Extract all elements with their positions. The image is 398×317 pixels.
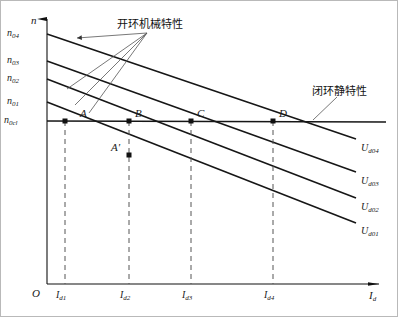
x-axis-label-sub: d xyxy=(373,295,377,303)
curve-label-sub: d02 xyxy=(368,206,379,214)
point-label-d: D xyxy=(279,107,287,119)
y-tick-n02: n02 xyxy=(7,72,19,83)
point-label-c: C xyxy=(197,107,204,119)
x-tick-id3: Id3 xyxy=(182,289,192,300)
x-tick-id2: Id2 xyxy=(120,289,130,300)
x-axis-label: Id xyxy=(369,289,376,301)
leader-line-closed-loop xyxy=(313,97,337,120)
point-label-a: A xyxy=(80,107,87,119)
curve-label-ud01: Ud01 xyxy=(361,225,379,236)
diagram-svg xyxy=(1,1,398,317)
y-tick-n03: n03 xyxy=(7,54,19,65)
curve-label-ud03: Ud03 xyxy=(361,175,379,186)
open-loop-line-2 xyxy=(47,79,356,198)
y-axis-label: n xyxy=(31,14,37,26)
curve-label-sub: d03 xyxy=(368,180,379,188)
curve-label-sub: d04 xyxy=(368,147,379,155)
curve-label-ud04: Ud04 xyxy=(361,142,379,153)
closed-loop-line xyxy=(47,121,386,122)
y-tick-n0cl: n0cl xyxy=(4,114,18,125)
x-tick-id4: Id4 xyxy=(264,289,274,300)
leader-line-a xyxy=(77,33,147,38)
annotation-closed-loop: 闭环静特性 xyxy=(312,82,367,98)
point-marker-a-prime xyxy=(127,153,132,158)
leader-line-d xyxy=(89,33,147,113)
point-marker-d xyxy=(271,119,276,124)
origin-label: O xyxy=(32,287,40,299)
curve-label-sub: d01 xyxy=(368,230,379,238)
leader-line-c xyxy=(75,33,147,105)
curve-label-ud02: Ud02 xyxy=(361,201,379,212)
y-tick-n01: n01 xyxy=(7,95,19,106)
open-loop-line-1 xyxy=(47,102,356,223)
point-marker-a xyxy=(63,119,68,124)
annotation-open-loop: 开环机械特性 xyxy=(117,15,183,31)
x-tick-sub: d2 xyxy=(123,294,130,302)
y-tick-sub: 0cl xyxy=(9,119,18,127)
point-marker-c xyxy=(189,119,194,124)
point-marker-b xyxy=(127,119,132,124)
y-tick-sub: 03 xyxy=(12,59,19,67)
figure-canvas: n O Id n04 n03 n02 n01 n0cl Id1 Id2 Id3 … xyxy=(0,0,398,317)
leader-line-b xyxy=(67,33,147,89)
x-tick-id1: Id1 xyxy=(56,289,66,300)
y-tick-n04: n04 xyxy=(7,27,19,38)
y-tick-sub: 01 xyxy=(12,100,19,108)
point-label-a-prime: A' xyxy=(111,141,120,153)
y-tick-sub: 04 xyxy=(12,32,19,40)
x-tick-sub: d1 xyxy=(59,294,66,302)
y-tick-sub: 02 xyxy=(12,77,19,85)
point-label-b: B xyxy=(135,107,142,119)
x-tick-sub: d3 xyxy=(185,294,192,302)
x-tick-sub: d4 xyxy=(267,294,274,302)
